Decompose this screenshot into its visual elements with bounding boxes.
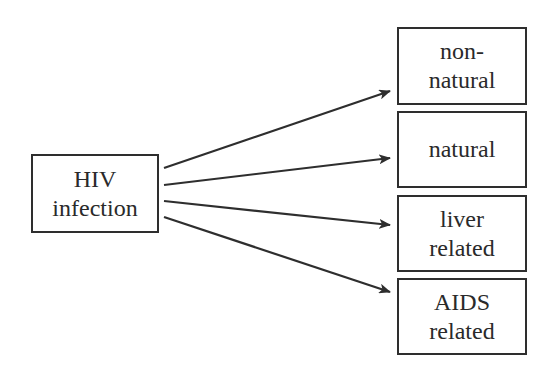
- node-label-line: liver: [440, 205, 484, 234]
- node-non-natural: non- natural: [397, 27, 527, 105]
- node-label-line: natural: [429, 66, 496, 95]
- node-label-line: related: [429, 234, 494, 263]
- node-label-line: HIV: [74, 165, 117, 194]
- edge-hiv-to-natural: [164, 158, 390, 185]
- node-label-line: infection: [52, 194, 137, 223]
- node-natural: natural: [397, 111, 527, 188]
- node-label-line: related: [429, 317, 494, 346]
- node-hiv-infection: HIV infection: [31, 154, 159, 233]
- node-aids-related: AIDS related: [397, 278, 527, 355]
- node-label-line: AIDS: [434, 288, 490, 317]
- node-label-line: non-: [440, 37, 484, 66]
- edge-hiv-to-aids-related: [164, 217, 390, 292]
- edge-hiv-to-non-natural: [164, 91, 390, 168]
- node-label-line: natural: [429, 135, 496, 164]
- edge-hiv-to-liver-related: [164, 201, 390, 225]
- node-liver-related: liver related: [397, 195, 527, 272]
